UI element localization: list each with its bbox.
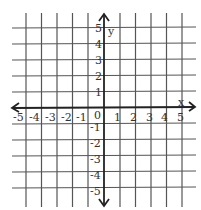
svg-text:2: 2 xyxy=(130,111,137,124)
coordinate-plane: y x 0 -5 -4 -3 -2 -1 1 2 3 4 5 5 4 3 2 1… xyxy=(0,0,201,210)
svg-text:-1: -1 xyxy=(90,121,101,134)
svg-text:-4: -4 xyxy=(29,111,40,124)
svg-text:-4: -4 xyxy=(90,169,101,182)
svg-text:5: 5 xyxy=(177,111,184,124)
svg-text:1: 1 xyxy=(114,111,121,124)
svg-text:1: 1 xyxy=(95,86,102,99)
svg-text:2: 2 xyxy=(95,70,102,83)
svg-text:-5: -5 xyxy=(90,185,101,198)
svg-text:-5: -5 xyxy=(13,111,24,124)
svg-text:-3: -3 xyxy=(90,153,101,166)
svg-text:-1: -1 xyxy=(76,111,87,124)
svg-text:3: 3 xyxy=(146,111,153,124)
y-axis-label: y xyxy=(107,25,115,38)
svg-text:-2: -2 xyxy=(90,137,101,150)
svg-text:4: 4 xyxy=(161,111,168,124)
svg-text:-3: -3 xyxy=(45,111,56,124)
x-axis-label: x xyxy=(178,96,185,109)
svg-text:5: 5 xyxy=(95,22,102,35)
svg-text:-2: -2 xyxy=(61,111,72,124)
svg-text:3: 3 xyxy=(95,54,102,67)
svg-text:4: 4 xyxy=(95,38,102,51)
